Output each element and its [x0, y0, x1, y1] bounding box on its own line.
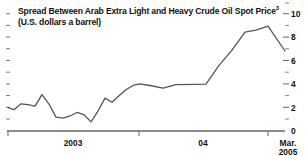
y-tick-label-0: 0	[291, 126, 296, 136]
chart-container: Spread Between Arab Extra Light and Heav…	[0, 0, 305, 156]
y-tick-label-4: 4	[291, 79, 296, 89]
right-axis-major-ticks	[283, 14, 289, 108]
y-tick-label-6: 6	[291, 56, 296, 66]
x-tick-label-04: 04	[198, 138, 208, 148]
x-tick-label-2003: 2003	[64, 138, 83, 148]
left-axis-ticks	[6, 14, 10, 119]
data-series-line	[8, 26, 285, 122]
x-axis-ticks	[8, 131, 268, 136]
y-tick-label-2: 2	[291, 103, 296, 113]
y-tick-label-10: 10	[291, 9, 301, 19]
chart-svg: 10 8 6 4 2 0 2003 04 Mar. 2005	[0, 0, 305, 156]
x-tick-label-2005: 2005	[279, 147, 298, 156]
y-tick-label-8: 8	[291, 32, 296, 42]
